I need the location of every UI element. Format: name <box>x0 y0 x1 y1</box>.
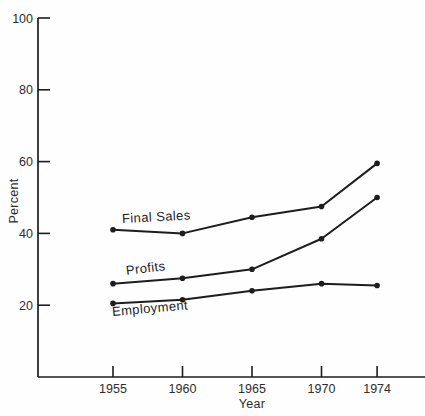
data-point-final-sales-1974 <box>374 161 380 167</box>
data-point-profits-1955 <box>110 281 116 287</box>
data-point-profits-1965 <box>249 267 255 273</box>
data-point-employment-1970 <box>319 281 325 287</box>
chart-canvas: 2040608010019551960196519701974 <box>0 0 425 416</box>
data-point-final-sales-1960 <box>180 231 186 237</box>
data-point-profits-1960 <box>180 275 186 281</box>
data-point-final-sales-1965 <box>249 214 255 220</box>
x-tick-label: 1960 <box>169 382 197 396</box>
data-point-profits-1974 <box>374 195 380 201</box>
y-tick-label: 60 <box>19 155 33 169</box>
y-tick-label: 80 <box>19 83 33 97</box>
y-tick-label: 40 <box>19 227 33 241</box>
x-tick-label: 1974 <box>363 382 391 396</box>
x-axis-title: Year <box>239 397 265 411</box>
y-axis-title: Percent <box>7 178 21 223</box>
y-tick-label: 20 <box>19 299 33 313</box>
x-tick-label: 1965 <box>238 382 266 396</box>
data-point-final-sales-1955 <box>110 227 116 233</box>
data-point-employment-1974 <box>374 283 380 289</box>
y-tick-label: 100 <box>12 12 33 26</box>
data-point-employment-1965 <box>249 288 255 294</box>
x-tick-label: 1955 <box>99 382 127 396</box>
data-point-final-sales-1970 <box>319 204 325 210</box>
data-point-profits-1970 <box>319 236 325 242</box>
chart-figure: 2040608010019551960196519701974 Percent … <box>0 0 425 416</box>
x-tick-label: 1970 <box>308 382 336 396</box>
